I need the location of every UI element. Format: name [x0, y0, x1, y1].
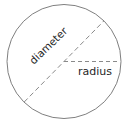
radius-label: radius	[78, 66, 112, 78]
circle-diagram-svg	[0, 0, 130, 128]
circle-diagram: diameter radius	[0, 0, 130, 128]
